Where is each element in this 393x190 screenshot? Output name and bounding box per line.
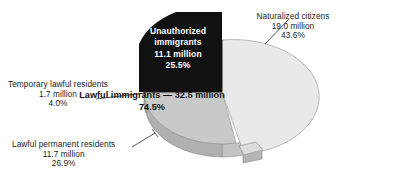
slice-label-unauthorized-percent: 25.5% bbox=[137, 60, 219, 71]
slice-label-naturalized-citizens: Naturalized citizens 19.0 million 43.6% bbox=[257, 12, 330, 41]
lawful-immigrants-total-headline: Lawful immigrants — 32.5 million bbox=[79, 90, 225, 102]
slice-label-naturalized-percent: 43.6% bbox=[257, 31, 330, 41]
slice-label-lawful-permanent-residents: Lawful permanent residents 11.7 million … bbox=[12, 140, 115, 169]
pie-slice-naturalized[interactable] bbox=[222, 40, 319, 154]
slice-label-unauthorized-immigrants: Unauthorized immigrants 11.1 million 25.… bbox=[137, 26, 219, 72]
slice-label-unauthorized-name-line1: Unauthorized bbox=[137, 26, 219, 37]
lawful-immigrants-total-percent: 74.5% bbox=[79, 102, 225, 114]
lawful-immigrants-total-callout: Lawful immigrants — 32.5 million 74.5% bbox=[79, 90, 225, 114]
slice-label-unauthorized-value: 11.1 million bbox=[137, 49, 219, 60]
pie-chart: Naturalized citizens 19.0 million 43.6% … bbox=[0, 0, 393, 190]
slice-label-permanent-percent: 26.9% bbox=[12, 159, 115, 169]
slice-label-unauthorized-name-line2: immigrants bbox=[137, 37, 219, 48]
leader-line-permanent bbox=[132, 133, 155, 147]
